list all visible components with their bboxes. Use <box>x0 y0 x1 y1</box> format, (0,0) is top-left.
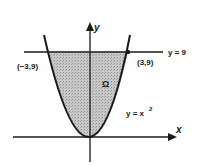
y-axis-arrow-icon <box>86 22 94 31</box>
line-equation-label: y = 9 <box>168 48 187 57</box>
parabola-exponent: 2 <box>149 106 153 112</box>
point-label-3-9: (3,9) <box>137 58 154 67</box>
y-axis-label: y <box>93 22 100 33</box>
region-diagram: y x y = 9 (−3,9) (3,9) Ω y = x 2 <box>0 0 201 166</box>
parabola-equation-label: y = x <box>126 109 145 118</box>
x-axis-label: x <box>175 124 182 135</box>
point-3-9 <box>126 50 130 54</box>
point-label-neg3-9: (−3,9) <box>17 62 38 71</box>
region-omega-label: Ω <box>102 79 109 89</box>
